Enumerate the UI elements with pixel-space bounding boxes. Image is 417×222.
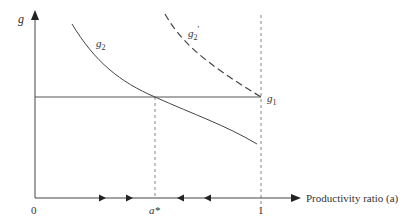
origin-label: 0 bbox=[31, 204, 37, 216]
g2-label: g2 bbox=[96, 37, 106, 52]
g1-label: g1 bbox=[267, 92, 277, 107]
left-arrow-icon bbox=[177, 195, 184, 202]
a-star-label: a* bbox=[149, 204, 161, 216]
x-axis-label: Productivity ratio (a) bbox=[306, 192, 399, 205]
diagram: g 0 a* 1 Productivity ratio (a) g1 g2 g2… bbox=[0, 0, 417, 222]
g2-prime-curve bbox=[165, 14, 261, 97]
y-axis-arrow-icon bbox=[31, 10, 39, 20]
g2-prime-label: g2' bbox=[188, 24, 200, 42]
right-arrow-icon bbox=[99, 195, 106, 202]
x-axis-arrow-icon bbox=[291, 194, 301, 202]
one-label: 1 bbox=[258, 204, 264, 216]
right-arrow-icon bbox=[126, 195, 133, 202]
left-arrow-icon bbox=[204, 195, 211, 202]
growth-diagram: g 0 a* 1 Productivity ratio (a) g1 g2 g2… bbox=[0, 0, 417, 222]
y-axis-label: g bbox=[18, 12, 24, 26]
